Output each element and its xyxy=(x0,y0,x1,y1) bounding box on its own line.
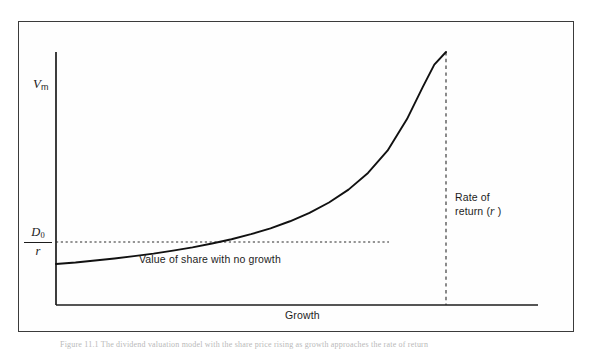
plot-svg xyxy=(0,0,591,356)
fraction-denominator: r xyxy=(24,244,52,258)
rate-of-return-paren: ) xyxy=(495,205,502,217)
rate-of-return-line-2: return (r ) xyxy=(455,205,501,219)
fraction-numerator-subscript: 0 xyxy=(40,230,44,240)
rate-of-return-line-1: Rate of xyxy=(455,191,501,205)
figure-caption: Figure 11.1 The dividend valuation model… xyxy=(60,340,428,349)
valuation-curve xyxy=(56,52,446,264)
y-axis-label-main: V xyxy=(33,76,41,91)
fraction-numerator: D0 xyxy=(24,226,52,242)
x-axis-label: Growth xyxy=(285,309,320,322)
no-growth-value-label: D0 r xyxy=(24,226,52,258)
y-axis-label-subscript: m xyxy=(41,82,49,92)
rate-of-return-text: return ( xyxy=(455,205,490,217)
y-axis-label: Vm xyxy=(33,78,49,93)
asymptote-annotation: Value of share with no growth xyxy=(139,253,281,266)
rate-of-return-label: Rate of return (r ) xyxy=(455,191,501,218)
fraction-numerator-symbol: D xyxy=(31,225,40,239)
figure-container: Vm D0 r Rate of return (r ) Value of sha… xyxy=(0,0,591,356)
